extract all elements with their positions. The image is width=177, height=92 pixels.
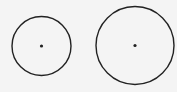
- large-circle-center-dot: [133, 44, 136, 47]
- background: [0, 0, 177, 92]
- small-circle-center-dot: [40, 44, 43, 47]
- circles-diagram: [0, 0, 177, 92]
